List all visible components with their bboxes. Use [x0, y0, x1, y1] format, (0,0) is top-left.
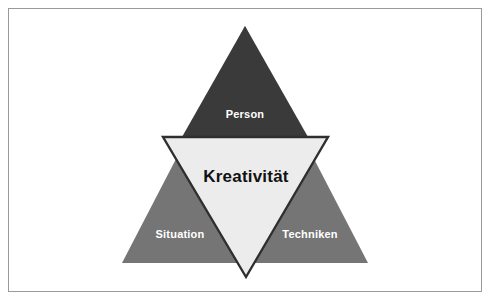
- label-kreativitaet: Kreativität: [203, 167, 288, 187]
- diagram-canvas: Person Situation Techniken Kreativität: [0, 0, 491, 301]
- triangle-diagram: [0, 0, 491, 301]
- label-person: Person: [226, 108, 265, 120]
- label-situation: Situation: [156, 228, 205, 240]
- outer-triangle-upper-dark-shape: [182, 26, 308, 137]
- label-techniken: Techniken: [282, 228, 337, 240]
